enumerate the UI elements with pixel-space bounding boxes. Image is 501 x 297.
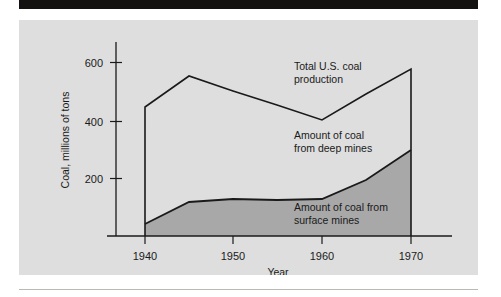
annotation-surface-mines-line2: surface mines <box>294 214 359 226</box>
coal-production-area-chart: 600 400 200 Coal, millions of tons 1940 … <box>19 20 478 275</box>
annotation-deep-mines-line2: from deep mines <box>294 142 372 154</box>
annotation-surface-mines-line1: Amount of coal from <box>294 201 388 213</box>
y-tick-label-400: 400 <box>85 116 103 128</box>
annotation-total-production-line2: production <box>294 73 343 85</box>
figure-panel: 600 400 200 Coal, millions of tons 1940 … <box>19 20 478 275</box>
x-axis-title: Year <box>267 266 289 275</box>
y-tick-label-200: 200 <box>85 173 103 185</box>
y-tick-label-600: 600 <box>85 57 103 69</box>
bottom-divider-rule <box>19 289 478 290</box>
x-tick-label-1960: 1960 <box>310 250 334 262</box>
surface-mines-area <box>145 150 411 236</box>
y-axis-title: Coal, millions of tons <box>59 92 71 189</box>
annotation-deep-mines-line1: Amount of coal <box>294 129 364 141</box>
x-tick-label-1970: 1970 <box>399 250 423 262</box>
annotation-total-production-line1: Total U.S. coal <box>294 60 362 72</box>
x-tick-label-1950: 1950 <box>221 250 245 262</box>
x-tick-label-1940: 1940 <box>133 250 157 262</box>
top-divider-rule <box>19 0 478 9</box>
